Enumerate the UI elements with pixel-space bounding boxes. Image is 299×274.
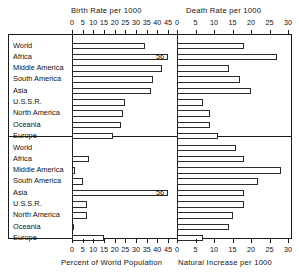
row-label-top-middle-america: Middle America: [13, 64, 64, 71]
axis-tick-label: 0: [175, 18, 179, 27]
bar-value-label-birth-rate: 56: [156, 52, 164, 61]
bar-birth-rate-asia: [72, 88, 151, 95]
bar-death-rate-world: [177, 43, 244, 50]
row-label-top-europe: Europe: [13, 132, 37, 139]
axis-tick-label: 5: [194, 245, 198, 254]
axis-tick-mark: [288, 239, 289, 243]
row-label-bottom-africa: Africa: [13, 155, 32, 162]
bar-percent-population-africa: [72, 156, 89, 163]
bar-natural-increase-africa: [177, 156, 244, 163]
row-label-bottom-asia: Asia: [13, 189, 27, 196]
bar-percent-population-south-america: [72, 178, 83, 185]
axis-tick-mark: [233, 239, 234, 243]
axis-ticklabels-natural-increase: 051015202530: [0, 245, 299, 254]
row-label-bottom-oceania: Oceania: [13, 223, 41, 230]
axis-tick-mark: [214, 239, 215, 243]
axis-tick-label: 20: [247, 245, 255, 254]
row-label-bottom-south-america: South America: [13, 177, 61, 184]
bar-birth-rate-north-america: [72, 110, 123, 117]
bar-natural-increase-u-s-s-r: [177, 201, 244, 208]
axis-tick-label: 30: [284, 245, 292, 254]
bar-birth-rate-africa: [72, 54, 168, 61]
bar-natural-increase-oceania: [177, 224, 229, 231]
chart-title-birth-rate: Birth Rate per 1000: [71, 6, 142, 15]
bar-natural-increase-south-america: [177, 178, 258, 185]
chart-caption-percent-population: Percent of World Population: [61, 258, 162, 267]
axis-tick-label: 0: [175, 245, 179, 254]
bar-death-rate-middle-america: [177, 65, 229, 72]
axis-tick-mark: [251, 239, 252, 243]
bar-percent-population-u-s-s-r: [72, 201, 87, 208]
bar-percent-population-middle-america: [72, 167, 75, 174]
axis-tick-label: 15: [229, 18, 237, 27]
axis-tick-mark: [270, 239, 271, 243]
bar-percent-population-asia: [72, 190, 168, 197]
axis-ticklabels-death-rate: 051015202530: [0, 18, 299, 27]
axis-tick-label: 5: [194, 18, 198, 27]
row-label-top-north-america: North America: [13, 109, 60, 116]
bar-death-rate-asia: [177, 88, 251, 95]
axis-tick-label: 25: [266, 245, 274, 254]
axis-tick-label: 10: [210, 245, 218, 254]
row-label-bottom-world: World: [13, 144, 32, 151]
bar-death-rate-u-s-s-r: [177, 99, 203, 106]
bar-birth-rate-europe: [72, 133, 113, 140]
panel-divider-horizontal: [8, 136, 292, 137]
bar-natural-increase-world: [177, 145, 236, 152]
axis-tick-label: 30: [284, 18, 292, 27]
bar-natural-increase-asia: [177, 190, 244, 197]
bar-death-rate-europe: [177, 133, 218, 140]
row-label-bottom-north-america: North America: [13, 211, 60, 218]
population-statistics-chart: Birth Rate per 1000 Death Rate per 1000 …: [0, 0, 299, 274]
axis-tick-label: 25: [266, 18, 274, 27]
bar-death-rate-south-america: [177, 76, 240, 83]
bar-natural-increase-middle-america: [177, 167, 281, 174]
bar-death-rate-africa: [177, 54, 277, 61]
bar-birth-rate-oceania: [72, 122, 121, 129]
bar-death-rate-oceania: [177, 122, 210, 129]
row-label-top-south-america: South America: [13, 75, 61, 82]
axis-tick-label: 10: [210, 18, 218, 27]
bar-birth-rate-u-s-s-r: [72, 99, 125, 106]
bar-birth-rate-south-america: [72, 76, 153, 83]
bar-percent-population-north-america: [72, 212, 87, 219]
bar-natural-increase-north-america: [177, 212, 233, 219]
bar-value-label-percent-population: 56: [156, 188, 164, 197]
row-label-bottom-u-s-s-r: U.S.S.R.: [13, 200, 42, 207]
row-label-top-africa: Africa: [13, 53, 32, 60]
bar-percent-population-oceania: [72, 224, 74, 231]
row-label-top-world: World: [13, 42, 32, 49]
bar-birth-rate-middle-america: [72, 65, 162, 72]
chart-title-death-rate: Death Rate per 1000: [186, 6, 261, 15]
row-label-top-oceania: Oceania: [13, 121, 41, 128]
axis-tick-label: 20: [247, 18, 255, 27]
axis-tickmarks-natural-increase: [0, 239, 299, 243]
axis-tick-mark: [196, 239, 197, 243]
bar-death-rate-north-america: [177, 110, 210, 117]
axis-tick-mark: [177, 239, 178, 243]
row-label-top-u-s-s-r: U.S.S.R.: [13, 98, 42, 105]
axis-tick-label: 15: [229, 245, 237, 254]
bar-birth-rate-world: [72, 43, 145, 50]
row-label-top-asia: Asia: [13, 87, 27, 94]
chart-caption-natural-increase: Natural Increase per 1000: [178, 258, 272, 267]
row-label-bottom-middle-america: Middle America: [13, 166, 64, 173]
